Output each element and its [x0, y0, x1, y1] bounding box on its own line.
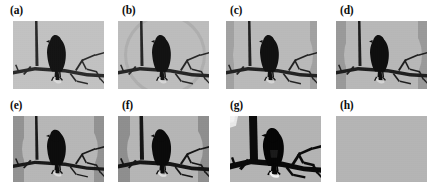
panel-g: (g)	[222, 96, 334, 191]
panel-g-image	[230, 116, 321, 182]
panel-b-image	[118, 21, 209, 89]
panel-d: (d)	[332, 0, 446, 96]
bird-scene-c	[226, 21, 317, 89]
panel-e: (e)	[0, 96, 112, 191]
panel-c-image	[226, 21, 317, 89]
panel-e-label: (e)	[10, 100, 22, 112]
panel-f-label: (f)	[122, 100, 133, 112]
panel-f-image	[118, 116, 209, 182]
bird-scene-f	[118, 116, 209, 182]
bird-scene-d	[336, 21, 427, 89]
panel-c: (c)	[222, 0, 334, 96]
panel-d-label: (d)	[340, 5, 353, 17]
panel-h-image-blank	[336, 116, 427, 182]
panel-a-label: (a)	[10, 5, 23, 17]
bird-scene-b	[118, 21, 209, 89]
panel-g-label: (g)	[230, 100, 243, 112]
panel-a-image	[13, 21, 104, 89]
panel-d-image	[336, 21, 427, 89]
panel-f: (f)	[112, 96, 224, 191]
panel-b-label: (b)	[122, 5, 135, 17]
panel-e-image	[13, 116, 104, 182]
panel-a: (a)	[0, 0, 112, 96]
figure-panel-grid: (a)	[0, 0, 446, 191]
bird-scene-a	[13, 21, 104, 89]
bird-scene-g	[230, 116, 321, 182]
panel-h: (h)	[332, 96, 446, 191]
panel-c-label: (c)	[230, 5, 242, 17]
panel-h-grain	[336, 116, 427, 182]
bird-scene-e	[13, 116, 104, 182]
panel-h-label: (h)	[340, 100, 353, 112]
panel-b: (b)	[112, 0, 224, 96]
